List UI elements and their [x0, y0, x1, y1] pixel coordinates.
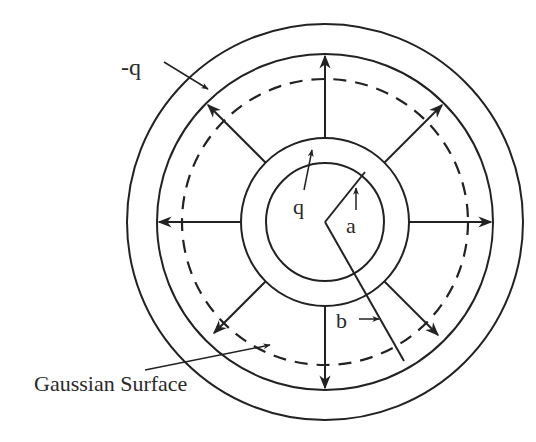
gaussian-surface-label: Gaussian Surface [34, 371, 187, 396]
field-arrow-up-right [384, 105, 442, 163]
inner-charge-label: q [293, 194, 304, 219]
radius-a-label: a [346, 213, 356, 238]
radius-b-label: b [336, 308, 347, 333]
outer-charge-label: -q [121, 54, 141, 80]
field-arrow-down-right [384, 281, 438, 335]
field-arrow-up-left [208, 105, 266, 163]
radius-b-line [325, 222, 404, 361]
gauss-law-diagram: -q q a b Gaussian Surface [0, 0, 536, 442]
radius-a-line [325, 172, 365, 222]
gaussian-surface-pointer-arrow [145, 345, 270, 370]
q-pointer-arrow [304, 150, 312, 190]
field-arrow-down-left [214, 281, 266, 333]
